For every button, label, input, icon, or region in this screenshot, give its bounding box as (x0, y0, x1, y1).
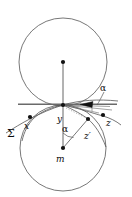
point-marker-z-prime (86, 117, 90, 121)
geometry-figure: x y z z′ m Σ α α (0, 0, 132, 197)
label-y: y (57, 115, 62, 124)
figure-canvas (0, 0, 132, 197)
label-z: z (106, 119, 111, 128)
point-marker-m (61, 146, 65, 150)
arrowhead-left (80, 102, 93, 108)
point-marker-z (101, 113, 105, 117)
point-marker-y (61, 103, 65, 107)
label-x: x (24, 122, 29, 131)
label-alpha-bottom: α (62, 125, 68, 134)
label-alpha-top: α (100, 84, 106, 93)
label-z-prime: z′ (84, 132, 91, 141)
point-marker-x (28, 115, 32, 119)
label-m: m (56, 155, 65, 164)
alpha-angle-arc-top (97, 92, 104, 105)
label-sigma: Σ (7, 128, 15, 139)
point-marker-upper-center (61, 60, 65, 64)
